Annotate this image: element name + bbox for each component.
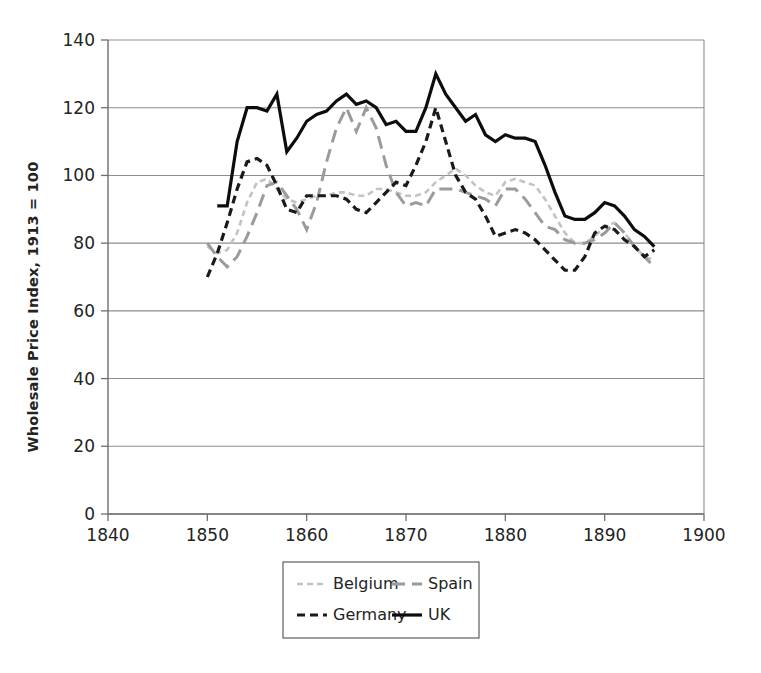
y-tick-label-60: 60 [73,301,95,321]
legend-label-belgium: Belgium [333,574,399,593]
y-axis-title: Wholesale Price Index, 1913 = 100 [25,162,41,453]
wholesale-price-index-chart: Wholesale Price Index, 1913 = 100 020406… [0,0,761,673]
y-axis-title-text: Wholesale Price Index, 1913 = 100 [25,162,41,453]
x-tick-label-1900: 1900 [682,525,725,545]
y-tick-label-140: 140 [63,30,95,50]
x-tick-label-1850: 1850 [186,525,229,545]
x-tick-label-1890: 1890 [583,525,626,545]
y-tick-label-0: 0 [84,504,95,524]
legend: BelgiumSpainGermanyUK [283,562,479,638]
legend-label-uk: UK [428,605,451,624]
y-tick-label-100: 100 [63,165,95,185]
y-tick-label-120: 120 [63,98,95,118]
gridlines [108,40,704,514]
series-line-uk [217,74,654,247]
y-axis-ticks: 020406080100120140 [63,30,108,524]
legend-label-spain: Spain [428,574,473,593]
x-tick-label-1880: 1880 [484,525,527,545]
x-tick-label-1870: 1870 [384,525,427,545]
x-tick-label-1860: 1860 [285,525,328,545]
x-tick-label-1840: 1840 [86,525,129,545]
x-axis-ticks: 1840185018601870188018901900 [86,514,725,545]
series-line-germany [207,108,654,277]
y-tick-label-80: 80 [73,233,95,253]
y-tick-label-20: 20 [73,436,95,456]
y-tick-label-40: 40 [73,369,95,389]
chart-canvas: Wholesale Price Index, 1913 = 100 020406… [0,0,761,673]
